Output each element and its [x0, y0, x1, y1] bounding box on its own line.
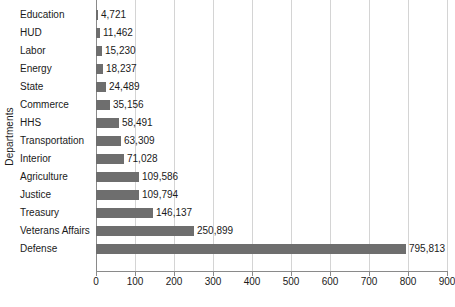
bar-row: 71,028	[96, 150, 447, 168]
category-label: Veterans Affairs	[20, 222, 94, 240]
bar-row: 24,489	[96, 78, 447, 96]
bar-value-label: 146,137	[153, 204, 192, 222]
bar-row: 250,899	[96, 222, 447, 240]
category-label: Commerce	[20, 96, 94, 114]
x-axis-tick-label: 800	[400, 276, 417, 287]
bar-row: 18,237	[96, 60, 447, 78]
x-axis-tick-label: 700	[361, 276, 378, 287]
category-label: Justice	[20, 186, 94, 204]
bar-value-label: 18,237	[103, 60, 137, 78]
bar	[96, 118, 119, 128]
bar	[96, 244, 406, 254]
bar	[96, 136, 121, 146]
bar-value-label: 63,309	[121, 132, 155, 150]
bar-row: 15,230	[96, 42, 447, 60]
category-label: HHS	[20, 114, 94, 132]
bar-row: 4,721	[96, 6, 447, 24]
bar	[96, 100, 110, 110]
bar-chart: Departments EducationHUDLaborEnergyState…	[0, 0, 455, 307]
gridline	[447, 0, 448, 271]
x-axis-tick-label: 300	[205, 276, 222, 287]
bar-row: 11,462	[96, 24, 447, 42]
bar	[96, 154, 124, 164]
plot-area: 4,72111,46215,23018,23724,48935,15658,49…	[96, 0, 447, 271]
category-label: Agriculture	[20, 168, 94, 186]
bar-row: 146,137	[96, 204, 447, 222]
bar	[96, 208, 153, 218]
y-axis-title: Departments	[0, 0, 18, 272]
x-axis-tick-label: 100	[127, 276, 144, 287]
bar-value-label: 24,489	[106, 78, 140, 96]
bar-value-label: 11,462	[100, 24, 133, 42]
category-label: Defense	[20, 240, 94, 258]
category-label: Transportation	[20, 132, 94, 150]
x-axis-tick-label: 400	[244, 276, 261, 287]
bar-row: 58,491	[96, 114, 447, 132]
bar-value-label: 4,721	[98, 6, 126, 24]
bar	[96, 64, 103, 74]
category-label: Treasury	[20, 204, 94, 222]
bar-row: 35,156	[96, 96, 447, 114]
y-axis-title-label: Departments	[4, 107, 15, 165]
bar-value-label: 109,794	[139, 186, 178, 204]
x-axis-tick-label: 200	[166, 276, 183, 287]
x-axis-tick-label: 0	[93, 276, 99, 287]
bar	[96, 226, 194, 236]
bar-row: 109,794	[96, 186, 447, 204]
x-axis-tick-label: 500	[283, 276, 300, 287]
category-label: Labor	[20, 42, 94, 60]
bar-value-label: 35,156	[110, 96, 144, 114]
category-label: State	[20, 78, 94, 96]
bar	[96, 190, 139, 200]
x-axis-tick-label: 900	[439, 276, 455, 287]
bar-value-label: 795,813	[406, 240, 445, 258]
bar-row: 109,586	[96, 168, 447, 186]
bar-row: 795,813	[96, 240, 447, 258]
x-axis-tick-label: 600	[322, 276, 339, 287]
category-label: Education	[20, 6, 94, 24]
bar-value-label: 109,586	[139, 168, 178, 186]
bar-value-label: 250,899	[194, 222, 233, 240]
x-axis-tick-labels: 0100200300400500600700800900	[96, 276, 448, 290]
bar-row: 63,309	[96, 132, 447, 150]
category-label: Interior	[20, 150, 94, 168]
bar-value-label: 58,491	[119, 114, 153, 132]
category-label: Energy	[20, 60, 94, 78]
bar-value-label: 71,028	[124, 150, 158, 168]
bar	[96, 82, 106, 92]
category-axis: EducationHUDLaborEnergyStateCommerceHHST…	[20, 6, 94, 270]
bar-value-label: 15,230	[102, 42, 136, 60]
bar	[96, 172, 139, 182]
category-label: HUD	[20, 24, 94, 42]
